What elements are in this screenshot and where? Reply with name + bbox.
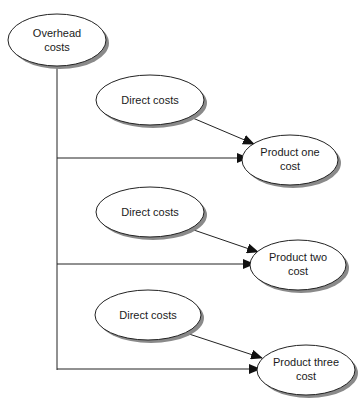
direct2-label: Direct costs xyxy=(121,206,179,218)
direct3-to-product3-arrow xyxy=(186,333,262,358)
node-product-one-cost: Product one cost xyxy=(242,135,341,188)
node-direct-costs-2: Direct costs xyxy=(96,187,207,240)
node-direct-costs-1: Direct costs xyxy=(96,75,207,128)
node-overhead-costs: Overhead costs xyxy=(8,14,109,69)
cost-allocation-diagram: Overhead costs Direct costs Product one … xyxy=(0,0,364,411)
direct2-to-product2-arrow xyxy=(188,228,258,252)
direct1-to-product1-arrow xyxy=(188,116,254,144)
product3-label-line1: Product three xyxy=(273,356,339,368)
overhead-label-line1: Overhead xyxy=(33,27,81,39)
node-product-three-cost: Product three cost xyxy=(257,345,358,398)
direct1-label: Direct costs xyxy=(121,94,179,106)
overhead-label-line2: costs xyxy=(44,41,70,53)
node-direct-costs-3: Direct costs xyxy=(95,290,204,343)
product1-label-line1: Product one xyxy=(260,146,319,158)
product3-label-line2: cost xyxy=(296,370,316,382)
node-product-two-cost: Product two cost xyxy=(250,240,349,293)
product2-label-line1: Product two xyxy=(269,251,327,263)
product2-label-line2: cost xyxy=(288,265,308,277)
product1-label-line2: cost xyxy=(280,160,300,172)
direct3-label: Direct costs xyxy=(119,309,177,321)
